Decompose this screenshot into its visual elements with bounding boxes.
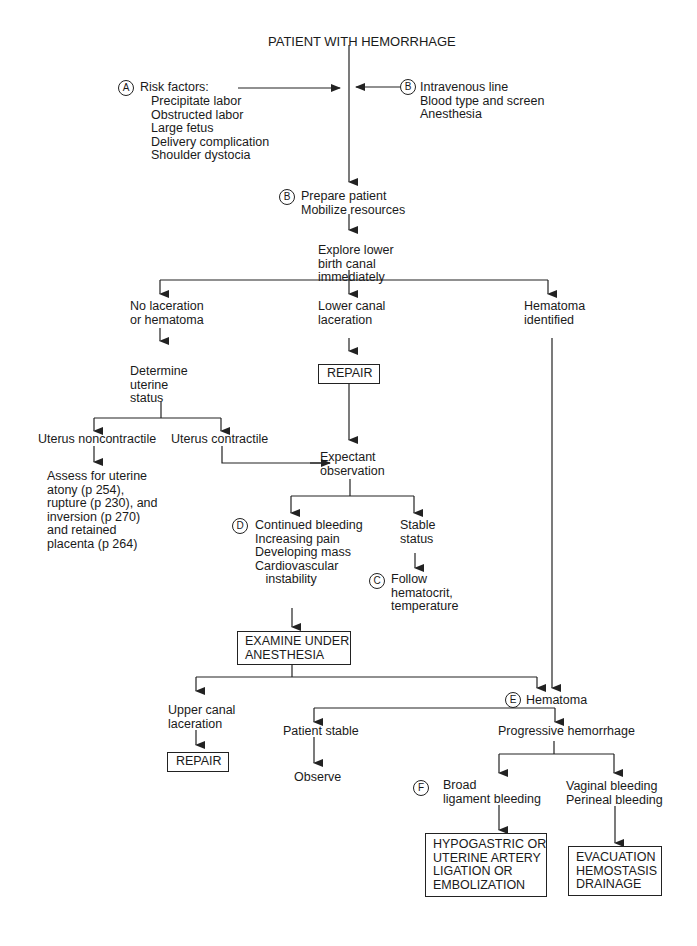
patient-stable-text: Patient stable [283,725,359,739]
hematoma-text: Hematoma [526,694,587,708]
lower-canal-laceration-text: Lower canal laceration [318,300,385,327]
stable-status-text: Stable status [400,519,435,546]
marker-e-icon: E [505,692,521,708]
determine-uterine-status: Determine uterine status [130,365,188,406]
marker-a-icon: A [118,80,134,96]
hypogastric-ligation-box: HYPOGASTRIC OR UTERINE ARTERY LIGATION O… [425,833,547,897]
iv-line-text: Intravenous line Blood type and screen A… [420,81,544,122]
marker-d-icon: D [232,518,248,534]
assess-uterine-text: Assess for uterine atony (p 254), ruptur… [47,470,158,551]
uterus-noncontractile-text: Uterus noncontractile [38,433,156,447]
evacuation-box: EVACUATION HEMOSTASIS DRAINAGE [568,846,662,896]
continued-bleeding-text: Continued bleeding Increasing pain Devel… [255,519,363,587]
risk-factors-list: Precipitate labor Obstructed labor Large… [151,95,269,163]
observe-text: Observe [294,771,341,785]
progressive-hemorrhage-text: Progressive hemorrhage [498,725,635,739]
explore-lower-canal: Explore lower birth canal immediately [318,244,394,285]
follow-hematocrit-text: Follow hematocrit, temperature [391,573,458,614]
repair-box-upper: REPAIR [167,752,229,772]
broad-ligament-bleeding-text: Broad ligament bleeding [443,779,541,806]
marker-b-prepare-icon: B [279,189,295,205]
vaginal-perineal-bleeding-text: Vaginal bleeding Perineal bleeding [566,780,663,807]
prepare-patient-text: Prepare patient Mobilize resources [301,190,405,217]
examine-under-anesthesia-box: EXAMINE UNDER ANESTHESIA [237,631,351,665]
uterus-contractile-text: Uterus contractile [171,433,268,447]
marker-c-icon: C [369,573,385,589]
marker-b-icon: B [400,79,416,95]
expectant-observation-text: Expectant observation [320,451,385,478]
hematoma-identified-text: Hematoma identified [524,300,585,327]
upper-canal-laceration-text: Upper canal laceration [168,704,235,731]
risk-factors-heading: Risk factors: [140,81,209,95]
marker-f-icon: F [413,780,429,796]
repair-box-lower: REPAIR [318,364,380,384]
title-patient-with-hemorrhage: PATIENT WITH HEMORRHAGE [268,35,456,49]
no-laceration-text: No laceration or hematoma [130,300,204,327]
